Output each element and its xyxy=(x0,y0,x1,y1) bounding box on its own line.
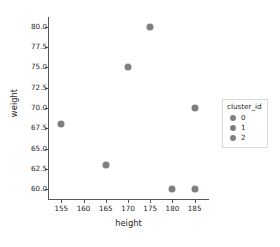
legend-entries: 012 xyxy=(227,113,262,143)
legend-item-label: 1 xyxy=(241,124,246,131)
y-tick-label: 60.0 xyxy=(31,185,47,192)
data-point xyxy=(191,186,198,193)
x-tick-mark xyxy=(106,200,107,203)
x-tick-mark xyxy=(172,200,173,203)
legend-item[interactable]: 1 xyxy=(227,123,262,133)
data-point xyxy=(191,105,198,112)
y-axis-label: weight xyxy=(9,73,19,133)
legend-marker-icon xyxy=(230,115,236,121)
legend-item-label: 0 xyxy=(241,114,246,121)
y-tick-label: 67.5 xyxy=(31,124,47,131)
x-tick-mark xyxy=(195,200,196,203)
plot-area xyxy=(48,17,208,199)
scatter-plot-figure: 60.062.565.067.570.072.575.077.580.0 155… xyxy=(0,0,280,247)
legend-item[interactable]: 2 xyxy=(227,133,262,143)
y-tick-label: 65.0 xyxy=(31,145,47,152)
y-tick-label: 77.5 xyxy=(31,43,47,50)
data-point xyxy=(169,186,176,193)
legend-marker-icon xyxy=(230,125,236,131)
legend-item-label: 2 xyxy=(241,134,246,141)
y-tick-label: 75.0 xyxy=(31,63,47,70)
data-point xyxy=(147,23,154,30)
x-tick-mark xyxy=(150,200,151,203)
x-axis-label: height xyxy=(48,218,209,228)
y-tick-label: 80.0 xyxy=(31,23,47,30)
x-tick-mark xyxy=(84,200,85,203)
data-point xyxy=(125,64,132,71)
legend-marker-icon xyxy=(230,135,236,141)
data-point xyxy=(102,161,109,168)
y-tick-label: 62.5 xyxy=(31,165,47,172)
legend: cluster_id 012 xyxy=(222,99,268,148)
legend-title: cluster_id xyxy=(227,103,262,111)
x-tick-mark xyxy=(61,200,62,203)
y-tick-label: 70.0 xyxy=(31,104,47,111)
legend-item[interactable]: 0 xyxy=(227,113,262,123)
x-tick-label: 185 xyxy=(180,205,210,212)
x-tick-mark xyxy=(128,200,129,203)
y-tick-label: 72.5 xyxy=(31,84,47,91)
data-point xyxy=(58,121,65,128)
